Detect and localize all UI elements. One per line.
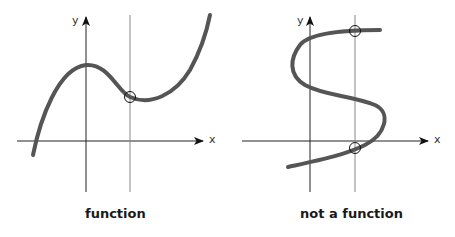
s-curve — [288, 30, 385, 167]
relation-graph — [242, 15, 428, 192]
function-curve — [33, 15, 210, 155]
caption-not-a-function: not a function — [300, 206, 403, 221]
function-graph — [17, 15, 210, 192]
y-axis-label: y — [72, 14, 79, 27]
diagram-canvas — [0, 0, 455, 237]
x-axis-label: x — [434, 133, 441, 146]
y-axis-label: y — [297, 14, 304, 27]
x-axis-label: x — [209, 133, 216, 146]
caption-function: function — [85, 206, 146, 221]
